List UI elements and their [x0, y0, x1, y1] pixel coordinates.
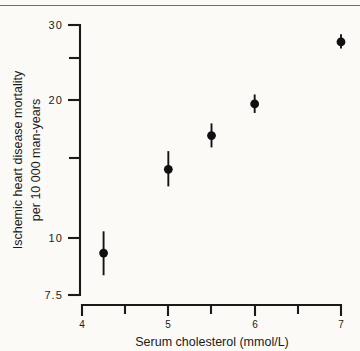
y-axis [68, 25, 80, 295]
y-axis-title-line1: Ischemic heart disease mortality [11, 70, 25, 249]
data-series [99, 34, 345, 275]
x-tick-label-4: 4 [79, 319, 85, 330]
data-point [99, 231, 108, 275]
point-marker [99, 249, 108, 258]
y-axis-title: Ischemic heart disease mortality per 10 … [11, 70, 43, 249]
x-axis-title: Serum cholesterol (mmol/L) [135, 335, 289, 349]
point-marker [250, 100, 259, 109]
x-tick-label-5: 5 [165, 319, 171, 330]
y-tick-label-30: 30 [49, 19, 63, 31]
y-tick-label-20: 20 [49, 94, 63, 106]
x-tick-label-7: 7 [338, 319, 344, 330]
point-marker [207, 131, 216, 140]
x-tick-label-6: 6 [252, 319, 258, 330]
data-point [250, 94, 259, 112]
figure-container: 30 20 10 7.5 Ischemic heart disease mort… [0, 0, 360, 351]
scatter-plot: 30 20 10 7.5 Ischemic heart disease mort… [0, 0, 360, 351]
y-tick-label-10: 10 [49, 232, 63, 244]
y-axis-title-line2: per 10 000 man-years [29, 99, 43, 221]
point-marker [337, 38, 346, 47]
data-point [337, 34, 346, 48]
point-marker [164, 165, 173, 174]
data-point [207, 123, 216, 147]
y-tick-label-7.5: 7.5 [44, 289, 63, 301]
x-axis [82, 305, 341, 316]
data-point [164, 151, 173, 186]
